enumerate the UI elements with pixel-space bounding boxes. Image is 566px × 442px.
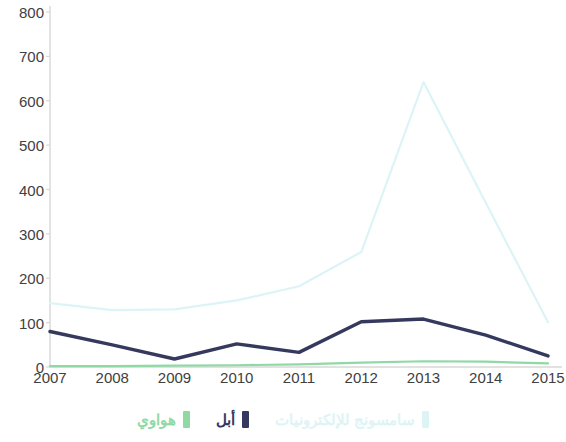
x-axis-tick-labels: 200720082009201020112012201320142015 <box>0 370 566 396</box>
chart-legend: سامسونج للإلكترونياتأبلهواوي <box>0 402 566 436</box>
x-axis-tick-label: 2013 <box>407 370 440 385</box>
legend-swatch-icon <box>242 411 249 428</box>
legend-item-label: سامسونج للإلكترونيات <box>275 412 415 427</box>
x-axis-tick-label: 2009 <box>158 370 191 385</box>
legend-item[interactable]: هواوي <box>137 411 190 428</box>
x-axis-tick-label: 2012 <box>345 370 378 385</box>
y-axis-tick-labels: 0100200300400500600700800 <box>0 0 44 396</box>
x-axis-tick-label: 2008 <box>96 370 129 385</box>
axis-spines <box>50 6 562 367</box>
legend-item[interactable]: أبل <box>216 411 249 428</box>
y-axis-tick-label: 800 <box>0 5 44 20</box>
y-axis-tick-label: 100 <box>0 315 44 330</box>
plot-area: 0100200300400500600700800 <box>0 0 566 396</box>
x-axis-tick-label: 2014 <box>469 370 502 385</box>
legend-item-label: هواوي <box>137 412 176 427</box>
line-chart: 0100200300400500600700800 20072008200920… <box>0 0 566 442</box>
y-axis-tick-label: 300 <box>0 226 44 241</box>
x-axis-tick-label: 2015 <box>531 370 564 385</box>
legend-item[interactable]: سامسونج للإلكترونيات <box>275 411 429 428</box>
series-line <box>50 319 548 359</box>
series-line <box>50 361 548 366</box>
y-axis-tick-label: 700 <box>0 49 44 64</box>
legend-item-label: أبل <box>216 412 235 427</box>
x-axis-tick-label: 2007 <box>33 370 66 385</box>
legend-swatch-icon <box>183 411 190 428</box>
legend-swatch-icon <box>422 411 429 428</box>
x-axis-tick-label: 2011 <box>283 370 315 385</box>
y-axis-tick-label: 200 <box>0 271 44 286</box>
plot-svg <box>0 0 566 396</box>
series-line <box>50 82 548 322</box>
y-axis-tick-label: 500 <box>0 138 44 153</box>
y-axis-tick-label: 600 <box>0 93 44 108</box>
y-axis-tick-label: 400 <box>0 182 44 197</box>
x-axis-tick-label: 2010 <box>220 370 253 385</box>
